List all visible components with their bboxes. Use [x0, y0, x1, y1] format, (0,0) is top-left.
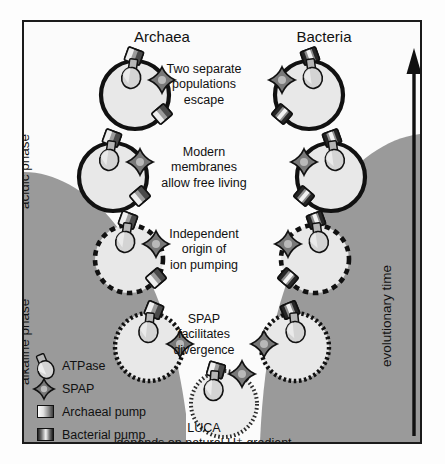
legend-item-archaeal-pump: Archaeal pump	[32, 400, 182, 423]
archaeal-pump-icon	[32, 401, 58, 423]
legend-item-bacterial-pump: Bacterial pump	[32, 423, 182, 444]
cell-bacteria-stage-2	[262, 212, 362, 302]
annotation-stage-3: SPAP facilitates divergence	[152, 312, 256, 358]
column-header-archaea: Archaea	[102, 28, 222, 45]
label-acidic-phase: acidic phase	[22, 134, 32, 209]
legend-label-archaeal-pump: Archaeal pump	[62, 405, 146, 419]
legend-item-atpase: ATPase	[32, 354, 182, 377]
label-evolutionary-time: evolutionary time	[379, 265, 394, 367]
bacterial-pump-icon	[32, 424, 58, 445]
annotation-stage-0: Two separate populations escape	[149, 62, 259, 108]
atpase-icon	[32, 355, 58, 377]
cell-bacteria-stage-0	[256, 48, 356, 138]
figure-canvas: Archaea Bacteria acidic phase alkaline p…	[0, 0, 445, 464]
legend: ATPase SPAP Archaeal pump	[32, 354, 182, 444]
legend-label-atpase: ATPase	[62, 359, 106, 373]
cell-bacteria-stage-1	[278, 130, 378, 220]
annotation-stage-2: Independent origin of ion pumping	[149, 227, 259, 273]
legend-item-spap: SPAP	[32, 377, 182, 400]
column-header-bacteria: Bacteria	[264, 28, 384, 45]
annotation-stage-1: Modern membranes allow free living	[149, 145, 259, 191]
label-alkaline-phase: alkaline phase	[22, 299, 32, 385]
spap-icon	[32, 378, 58, 400]
legend-label-spap: SPAP	[62, 382, 94, 396]
figure-frame: Archaea Bacteria acidic phase alkaline p…	[22, 20, 422, 444]
legend-label-bacterial-pump: Bacterial pump	[62, 428, 145, 442]
evolutionary-time-arrow	[406, 46, 422, 436]
